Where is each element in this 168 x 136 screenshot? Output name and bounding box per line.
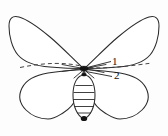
head-dot <box>82 73 87 76</box>
callout-label-2: 2 <box>114 70 120 81</box>
right-forewing <box>85 16 160 68</box>
butterfly-illustration <box>0 0 168 136</box>
butterfly-diagram-figure: 1 2 <box>0 0 168 136</box>
segmented-abdomen <box>73 75 95 119</box>
callout-label-1: 1 <box>112 56 118 67</box>
tail-dot <box>81 116 87 121</box>
left-forewing <box>9 16 84 68</box>
thorax-junction-dot <box>80 66 88 71</box>
